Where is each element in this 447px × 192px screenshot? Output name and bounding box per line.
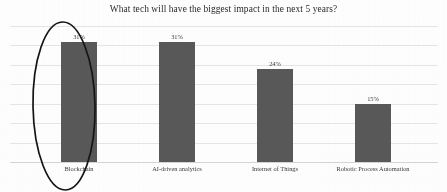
bar-rect[interactable] [355,104,391,162]
bar-value-label: 31% [73,33,85,40]
bar-group-ai-driven-analytics: 31% [138,26,216,162]
bar-rect[interactable] [159,42,195,162]
bar-value-label: 24% [269,60,281,67]
bar-chart-figure: What tech will have the biggest impact i… [0,0,447,192]
plot-area: 31% 31% 24% 15% [10,26,438,163]
bar-group-robotic-process-automation: 15% [334,26,412,162]
category-label-ai-driven-analytics: AI-driven analytics [152,165,202,172]
bar-rect[interactable] [257,69,293,162]
category-label-robotic-process-automation: Robotic Process Automation [336,165,409,172]
x-axis-category-labels: Blockchain AI-driven analytics Internet … [10,165,438,179]
bar-group-internet-of-things: 24% [236,26,314,162]
chart-title: What tech will have the biggest impact i… [0,4,447,14]
category-label-blockchain: Blockchain [64,165,93,172]
bar-value-label: 15% [367,95,379,102]
category-label-internet-of-things: Internet of Things [252,165,298,172]
bar-rect[interactable] [61,42,97,162]
bars-layer: 31% 31% 24% 15% [10,26,438,163]
bar-value-label: 31% [171,33,183,40]
bar-group-blockchain: 31% [40,26,118,162]
